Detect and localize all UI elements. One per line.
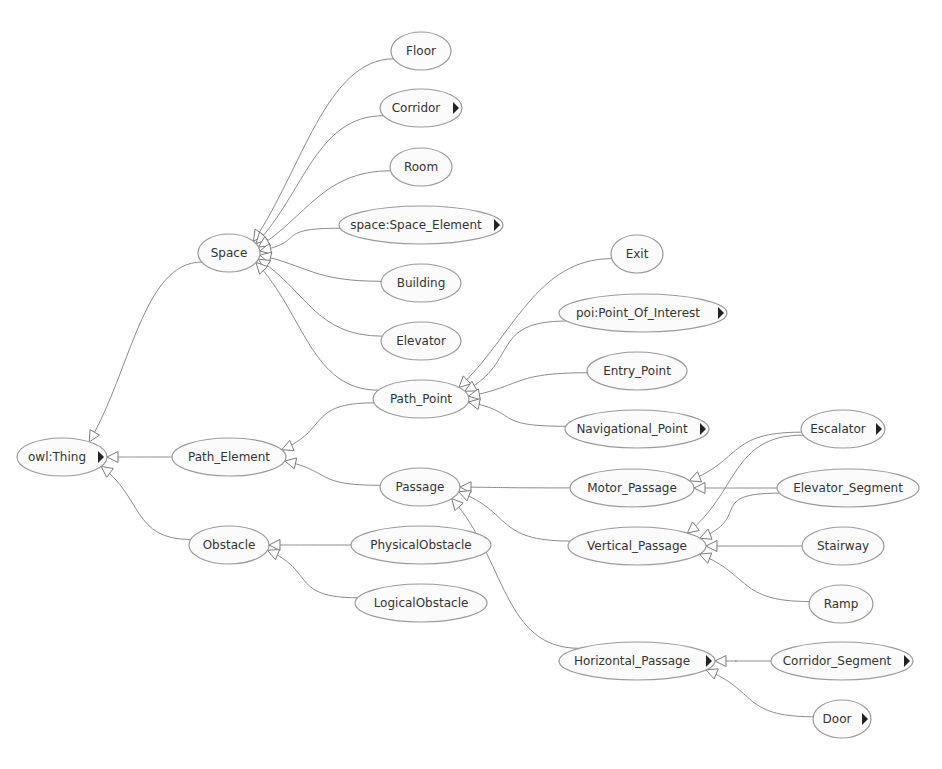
node-label: Elevator_Segment — [793, 481, 903, 495]
subclass-arrow-icon — [700, 529, 712, 539]
node-label: Horizontal_Passage — [574, 654, 690, 668]
subclass-arrow-icon — [89, 430, 99, 442]
node-label: Ramp — [824, 597, 859, 611]
class-node-entry-point[interactable]: Entry_Point — [587, 352, 687, 390]
subclass-arrow-icon — [689, 472, 701, 482]
node-label: PhysicalObstacle — [370, 538, 472, 552]
node-label: Elevator — [396, 334, 446, 348]
class-node-vertical-passage[interactable]: Vertical_Passage — [568, 527, 706, 565]
subclass-arrow-icon — [107, 452, 118, 463]
node-label: Passage — [396, 480, 445, 494]
node-label: Obstacle — [203, 538, 256, 552]
edge-poi-to-path_point — [465, 321, 567, 391]
edge-passage-to-path_element — [285, 461, 380, 485]
class-node-floor[interactable]: Floor — [391, 32, 451, 70]
class-node-space-element[interactable]: space:Space_Element — [339, 206, 503, 244]
edge-logical_obstacle-to-obstacle — [267, 550, 357, 597]
subclass-arrow-icon — [694, 483, 705, 494]
node-label: Exit — [626, 247, 649, 261]
class-node-ramp[interactable]: Ramp — [809, 585, 873, 623]
edge-elevator-to-space — [258, 259, 382, 336]
node-label: Corridor — [392, 101, 441, 115]
class-node-passage[interactable]: Passage — [380, 468, 460, 506]
class-node-door[interactable]: Door — [813, 700, 871, 738]
class-node-elevator[interactable]: Elevator — [381, 322, 461, 360]
node-label: Entry_Point — [603, 364, 671, 378]
subclass-arrow-icon — [715, 656, 726, 667]
edge-door-to-horizontal_passage — [706, 670, 813, 717]
class-node-exit[interactable]: Exit — [611, 235, 663, 273]
class-node-physical-obstacle[interactable]: PhysicalObstacle — [351, 526, 491, 564]
edge-horizontal_passage-to-passage — [452, 499, 579, 649]
class-node-corridor[interactable]: Corridor — [380, 89, 462, 127]
edge-ramp-to-vertical_passage — [699, 554, 809, 601]
class-node-space[interactable]: Space — [198, 234, 260, 272]
edge-space_element-to-space — [260, 228, 340, 251]
class-node-poi[interactable]: poi:Point_Of_Interest — [559, 294, 727, 332]
class-node-obstacle[interactable]: Obstacle — [189, 526, 269, 564]
class-node-owl-thing[interactable]: owl:Thing — [17, 438, 107, 476]
class-node-path-point[interactable]: Path_Point — [373, 380, 469, 418]
subclass-arrow-icon — [452, 499, 463, 511]
node-label: poi:Point_Of_Interest — [576, 306, 700, 320]
class-node-escalator[interactable]: Escalator — [801, 410, 885, 448]
class-node-motor-passage[interactable]: Motor_Passage — [570, 469, 694, 507]
node-label: Escalator — [810, 422, 866, 436]
subclass-arrow-icon — [285, 458, 297, 469]
node-label: Stairway — [817, 539, 869, 553]
subclass-arrow-icon — [699, 553, 711, 563]
node-label: Navigational_Point — [576, 422, 688, 436]
edge-building-to-space — [260, 255, 381, 281]
subclass-arrow-icon — [459, 491, 471, 501]
edge-elevator_segment-to-vertical_passage — [700, 493, 780, 538]
node-label: Corridor_Segment — [783, 654, 892, 668]
class-node-navigational-point[interactable]: Navigational_Point — [565, 410, 709, 448]
node-label: space:Space_Element — [350, 218, 482, 232]
class-node-building[interactable]: Building — [381, 264, 461, 302]
node-label: Space — [211, 246, 248, 260]
class-node-path-element[interactable]: Path_Element — [172, 438, 286, 476]
class-node-horizontal-passage[interactable]: Horizontal_Passage — [559, 642, 715, 680]
edge-motor_passage-to-passage — [460, 487, 570, 488]
node-label: Door — [823, 712, 852, 726]
node-label: Path_Point — [390, 392, 452, 406]
node-label: owl:Thing — [28, 450, 86, 464]
edge-escalator-to-motor_passage — [689, 432, 801, 481]
node-label: Building — [397, 276, 446, 290]
subclass-arrow-icon — [269, 540, 280, 551]
edge-navigational_point-to-path_point — [468, 402, 565, 426]
node-label: LogicalObstacle — [374, 596, 469, 610]
subclass-arrow-icon — [468, 399, 480, 410]
subclass-arrow-icon — [282, 440, 294, 450]
subclass-arrow-icon — [706, 669, 718, 679]
class-node-stairway[interactable]: Stairway — [802, 527, 884, 565]
node-label: Room — [404, 160, 438, 174]
class-node-corridor-segment[interactable]: Corridor_Segment — [771, 642, 913, 680]
class-node-logical-obstacle[interactable]: LogicalObstacle — [355, 584, 487, 622]
class-node-room[interactable]: Room — [390, 148, 452, 186]
ontology-graph: owl:ThingSpacePath_ElementObstacleFloorC… — [0, 0, 942, 769]
subclass-arrow-icon — [706, 541, 717, 552]
node-label: Motor_Passage — [587, 481, 677, 495]
edge-space-to-owl_thing — [89, 262, 202, 442]
class-node-elevator-segment[interactable]: Elevator_Segment — [777, 469, 919, 507]
node-label: Path_Element — [188, 450, 270, 464]
edge-path_point-to-path_element — [282, 403, 374, 450]
edge-obstacle-to-owl_thing — [101, 466, 191, 539]
edge-path_point-to-space — [256, 262, 378, 390]
subclass-arrow-icon — [267, 549, 279, 559]
node-label: Floor — [406, 44, 436, 58]
node-label: Vertical_Passage — [587, 539, 687, 553]
